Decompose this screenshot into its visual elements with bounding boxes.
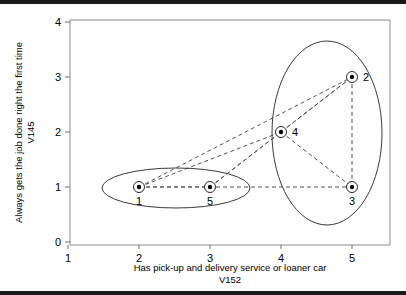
data-point-label: 1	[136, 195, 142, 207]
y-tick-label: 1	[55, 181, 61, 193]
data-point-dot	[208, 185, 212, 189]
data-point-dot	[350, 75, 354, 79]
y-tick-label: 3	[55, 71, 61, 83]
y-tick-label: 2	[55, 126, 61, 138]
cluster-ellipses	[102, 41, 382, 225]
connection-lines	[139, 77, 352, 187]
data-point-dot	[279, 130, 283, 134]
y-tick-label: 0	[55, 236, 61, 248]
x-tick-label: 1	[65, 252, 71, 264]
tick-labels: 0123412345	[55, 16, 355, 264]
data-point-label: 2	[363, 71, 369, 83]
connection-line	[281, 132, 352, 187]
axis-ticks	[65, 22, 352, 249]
plot-border	[70, 20, 390, 245]
data-point-dot	[350, 185, 354, 189]
data-point-dot	[137, 185, 141, 189]
data-point-label: 3	[349, 195, 355, 207]
y-axis-title: Always gets the job done right the first…	[13, 42, 24, 223]
connection-line	[281, 77, 352, 132]
connection-line	[139, 132, 281, 187]
cluster-right	[272, 41, 382, 225]
x-tick-label: 5	[349, 252, 355, 264]
data-point-label: 4	[292, 126, 298, 138]
scatter-plot: 15423 0123412345 Has pick-up and deliver…	[0, 0, 406, 295]
plot-frame	[70, 20, 390, 245]
x-axis-variable-code: V152	[219, 274, 241, 285]
cluster-left	[102, 168, 250, 208]
chart-screenshot: 15423 0123412345 Has pick-up and deliver…	[0, 0, 406, 295]
connection-line	[139, 77, 352, 187]
y-axis-variable-code: V145	[25, 121, 36, 143]
y-tick-label: 4	[55, 16, 61, 28]
data-point-label: 5	[207, 195, 213, 207]
x-axis-title: Has pick-up and delivery service or loan…	[134, 262, 327, 273]
